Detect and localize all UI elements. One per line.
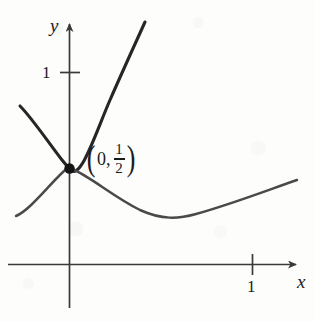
fraction-denominator: 2 [114,161,124,176]
curve-catenary [16,168,297,218]
point-coordinate-label: ( 0 , 1 2 ) [86,142,136,176]
graph-figure [0,0,315,322]
point-x-value: 0 [97,150,106,168]
close-paren: ) [126,144,135,174]
fraction-numerator: 1 [114,142,124,157]
point-y-fraction: 1 2 [114,142,125,176]
x-axis-tick-label-1: 1 [247,278,256,295]
coordinate-comma: , [106,150,111,168]
y-axis-tick-label-1: 1 [42,64,51,81]
x-axis-label: x [297,272,305,291]
open-paren: ( [87,144,96,174]
y-axis-label: y [50,16,58,35]
intersection-point-marker [64,163,74,173]
